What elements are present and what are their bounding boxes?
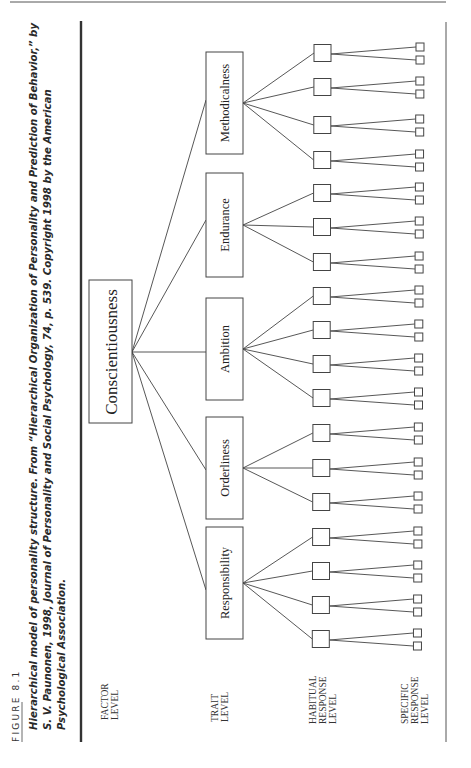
specific-response-box	[414, 540, 422, 548]
habitual-response-box	[314, 185, 331, 202]
tree-connectors	[132, 47, 416, 646]
figure-label: FIGURE 8.1	[11, 669, 21, 742]
specific-response-box	[414, 423, 422, 431]
habitual-response-box	[313, 390, 330, 407]
specific-response-box	[416, 77, 424, 85]
habitual-response-box	[313, 254, 330, 271]
habitual-response-box	[313, 322, 330, 339]
specific-response-box	[415, 299, 423, 307]
specific-response-box	[414, 505, 422, 513]
svg-text:FACTOR: FACTOR	[100, 683, 110, 720]
specific-response-box	[414, 527, 422, 535]
specific-response-box	[414, 595, 422, 603]
specific-response-box	[415, 286, 423, 294]
habitual-response-box	[314, 117, 331, 134]
trait-node: Endurance	[206, 173, 243, 277]
specific-response-box	[414, 458, 422, 466]
svg-text:LEVEL: LEVEL	[220, 692, 230, 722]
specific-response-nodes	[413, 43, 424, 650]
habitual-response-box	[313, 460, 330, 477]
habitual-response-box	[312, 597, 329, 614]
trait-nodes: MethodicalnessEnduranceAmbitionOrderline…	[206, 52, 243, 639]
specific-response-box	[414, 574, 422, 582]
trait-level-label: TRAIT LEVEL	[210, 692, 230, 722]
specific-response-box	[414, 471, 422, 479]
habitual-response-box	[313, 356, 330, 373]
trait-node: Methodicalness	[206, 52, 243, 154]
specific-response-box	[415, 401, 423, 409]
specific-level-label: SPECIFIC RESPONSE LEVEL	[400, 676, 430, 724]
specific-response-box	[416, 90, 424, 98]
svg-text:TRAIT: TRAIT	[210, 694, 220, 722]
specific-response-box	[415, 354, 423, 362]
factor-label: Conscientiousness	[102, 289, 121, 415]
svg-text:LEVEL: LEVEL	[110, 690, 120, 720]
habitual-response-box	[313, 529, 330, 546]
habitual-response-nodes	[312, 45, 331, 648]
habitual-level-label: HABITUAL RESPONSE LEVEL	[308, 675, 338, 724]
trait-label: Responsibility	[218, 546, 232, 619]
trait-node: Ambition	[206, 298, 243, 400]
trait-label: Orderliness	[218, 439, 232, 497]
svg-text:SPECIFIC: SPECIFIC	[400, 683, 410, 724]
habitual-response-box	[313, 494, 330, 511]
specific-response-box	[414, 561, 422, 569]
habitual-response-box	[312, 631, 329, 648]
specific-response-box	[413, 629, 421, 637]
specific-response-box	[415, 230, 423, 238]
caption-line-2: S. V. Paunonen, 1998, Journal of Persona…	[42, 89, 53, 730]
specific-response-box	[415, 367, 423, 375]
habitual-response-box	[313, 563, 330, 580]
caption-line-3: Psychological Association.	[56, 579, 67, 730]
habitual-response-box	[314, 79, 331, 96]
specific-response-box	[414, 608, 422, 616]
habitual-response-box	[313, 425, 330, 442]
trait-label: Ambition	[218, 324, 232, 373]
specific-response-box	[416, 56, 424, 64]
habitual-response-box	[314, 152, 331, 169]
specific-response-box	[415, 333, 423, 341]
specific-response-box	[415, 183, 423, 191]
svg-text:HABITUAL: HABITUAL	[308, 675, 318, 724]
specific-response-box	[413, 642, 421, 650]
specific-response-box	[415, 252, 423, 260]
habitual-response-box	[314, 219, 331, 236]
specific-response-box	[415, 217, 423, 225]
svg-text:LEVEL: LEVEL	[328, 694, 338, 724]
specific-response-box	[414, 492, 422, 500]
trait-label: Endurance	[218, 198, 232, 252]
specific-response-box	[415, 196, 423, 204]
trait-node: Orderliness	[206, 417, 243, 519]
habitual-response-box	[313, 288, 330, 305]
specific-response-box	[416, 43, 424, 51]
trait-label: Methodicalness	[218, 64, 232, 143]
svg-text:RESPONSE: RESPONSE	[410, 676, 420, 724]
svg-text:LEVEL: LEVEL	[420, 694, 430, 724]
specific-response-box	[416, 150, 424, 158]
specific-response-box	[415, 388, 423, 396]
specific-response-box	[415, 265, 423, 273]
figure-canvas: FIGURE 8.1 Hierarchical model of persona…	[0, 0, 471, 768]
specific-response-box	[416, 115, 424, 123]
factor-level-label: FACTOR LEVEL	[100, 683, 120, 720]
trait-node: Responsibility	[206, 527, 243, 639]
habitual-response-box	[314, 45, 331, 62]
factor-node: Conscientiousness	[89, 280, 132, 423]
specific-response-box	[416, 128, 424, 136]
specific-response-box	[416, 163, 424, 171]
svg-text:RESPONSE: RESPONSE	[318, 676, 328, 724]
specific-response-box	[415, 320, 423, 328]
caption-line-1: Hierarchical model of personality struct…	[28, 23, 39, 730]
specific-response-box	[414, 436, 422, 444]
